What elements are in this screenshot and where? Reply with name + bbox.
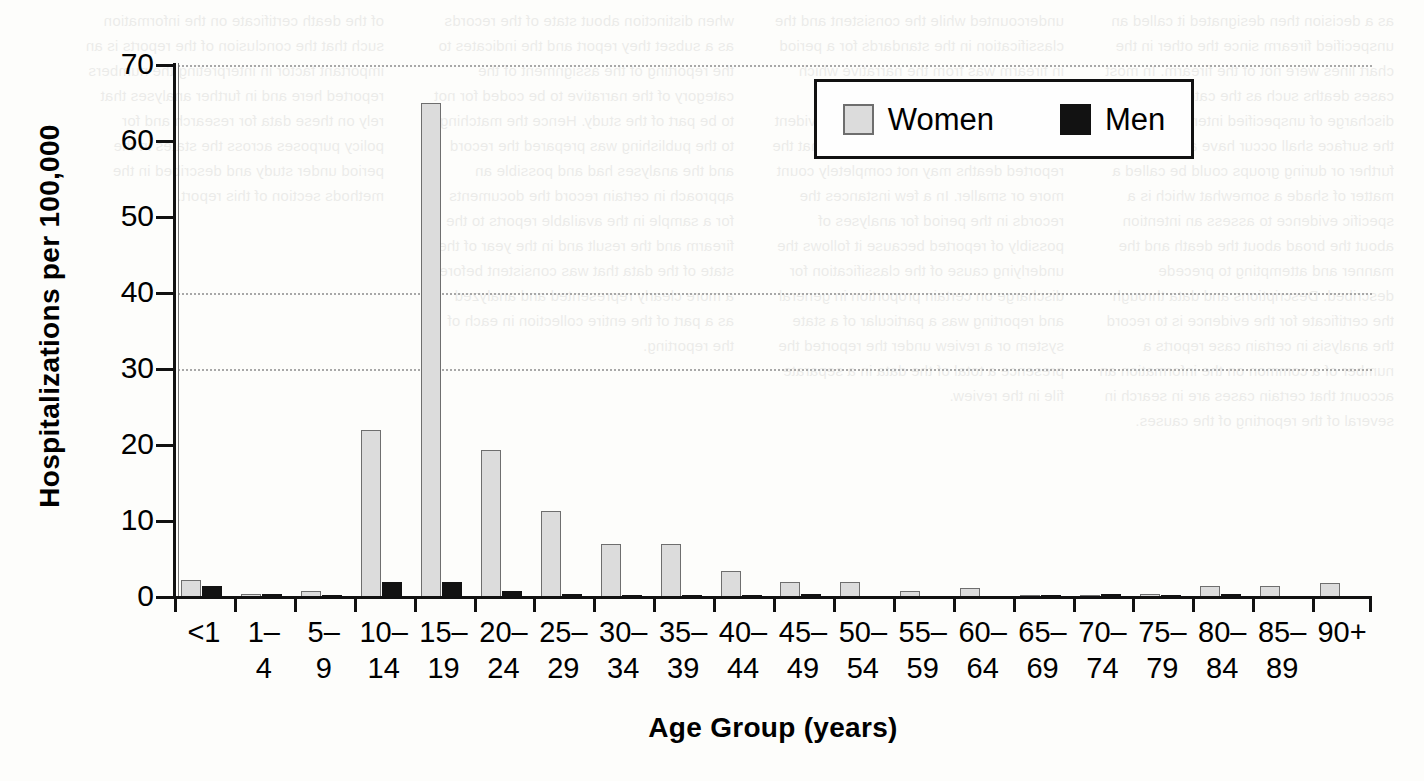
y-axis-tick-label: 10 [64, 505, 154, 535]
x-axis-tick [414, 597, 417, 612]
y-axis-tick [156, 292, 174, 295]
y-axis-tick [156, 368, 174, 371]
x-axis-tick [773, 597, 776, 612]
x-axis-tick [1013, 597, 1016, 612]
x-axis-category-label: 80–84 [1192, 614, 1252, 686]
chart-legend: Women Men [814, 79, 1194, 159]
y-axis-tick-label: 30 [64, 353, 154, 383]
y-axis-tick-label: 60 [64, 125, 154, 155]
bar-women-1014 [361, 430, 381, 597]
x-axis-category-label: 20–24 [474, 614, 534, 686]
x-axis-category-label: 25–29 [533, 614, 593, 686]
bar-chart: Hospitalizations per 100,000 01020304050… [0, 0, 1424, 781]
x-axis-category-label: 15–19 [414, 614, 474, 686]
x-axis-tick [893, 597, 896, 612]
bar-women-4549 [780, 582, 800, 597]
y-axis-tick [156, 520, 174, 523]
y-axis-tick-labels: 010203040506070 [64, 65, 154, 597]
x-axis-tick [294, 597, 297, 612]
y-axis-tick-label: 40 [64, 277, 154, 307]
legend-label-men: Men [1105, 104, 1165, 135]
legend-item-women: Women [843, 104, 994, 135]
x-axis-category-label: 85–89 [1252, 614, 1312, 686]
x-axis-tick [1252, 597, 1255, 612]
y-axis-tick [156, 596, 174, 599]
y-axis-tick [156, 64, 174, 67]
x-axis-category-label: 35–39 [653, 614, 713, 686]
bar-women-1519 [421, 103, 441, 597]
x-axis-tick [593, 597, 596, 612]
bar-women-2024 [481, 450, 501, 597]
x-axis-category-label: 70–74 [1073, 614, 1133, 686]
legend-swatch-women-icon [843, 104, 874, 135]
y-axis-tick-label: 0 [64, 581, 154, 611]
y-axis-line [173, 63, 176, 599]
x-axis-title: Age Group (years) [174, 712, 1372, 744]
bar-women-90+ [1320, 583, 1340, 597]
x-axis-tick [953, 597, 956, 612]
x-axis-tick [713, 597, 716, 612]
x-axis-tick [174, 597, 177, 612]
x-axis-tick [653, 597, 656, 612]
x-axis-category-label: 30–34 [593, 614, 653, 686]
x-axis-category-label: 65–69 [1013, 614, 1073, 686]
y-axis-inner-line [178, 63, 179, 599]
x-axis-tick [354, 597, 357, 612]
x-axis-ticks [174, 597, 1372, 613]
legend-item-men: Men [1060, 104, 1165, 135]
x-axis-category-label: 1–4 [234, 614, 294, 686]
x-axis-tick [234, 597, 237, 612]
bar-women-1 [181, 580, 201, 597]
bar-women-3539 [661, 544, 681, 597]
x-axis-tick [1132, 597, 1135, 612]
y-axis-tick-label: 20 [64, 429, 154, 459]
y-axis-tick-label: 70 [64, 49, 154, 79]
x-axis-category-label: 10–14 [354, 614, 414, 686]
x-axis-category-label: 40–44 [713, 614, 773, 686]
y-axis-tick [156, 444, 174, 447]
x-axis-category-label: 45–49 [773, 614, 833, 686]
x-axis-category-label: 5–9 [294, 614, 354, 686]
bar-men-1519 [442, 582, 462, 597]
legend-swatch-men-icon [1060, 104, 1091, 135]
x-axis-tick [1073, 597, 1076, 612]
x-axis-tick [474, 597, 477, 612]
bar-women-3034 [601, 544, 621, 597]
x-axis-tick [1369, 597, 1372, 612]
x-axis-tick [533, 597, 536, 612]
bar-men-1014 [382, 582, 402, 597]
bar-women-4044 [721, 571, 741, 597]
y-axis-tick-label: 50 [64, 201, 154, 231]
x-axis-category-label: 75–79 [1132, 614, 1192, 686]
y-axis-title: Hospitalizations per 100,000 [34, 36, 66, 596]
bar-women-2529 [541, 511, 561, 597]
y-axis-tick [156, 140, 174, 143]
x-axis-category-label: <1 [174, 614, 234, 650]
x-axis-tick [1312, 597, 1315, 612]
x-axis-tick [1192, 597, 1195, 612]
x-axis-category-label: 55–59 [893, 614, 953, 686]
x-axis-category-labels: <11–45–910–1415–1920–2425–2930–3435–3940… [174, 614, 1372, 694]
x-axis-category-label: 60–64 [953, 614, 1013, 686]
x-axis-category-label: 50–54 [833, 614, 893, 686]
x-axis-category-label: 90+ [1312, 614, 1372, 650]
bar-women-5054 [840, 582, 860, 597]
y-axis-tick [156, 216, 174, 219]
x-axis-tick [833, 597, 836, 612]
legend-label-women: Women [888, 104, 994, 135]
